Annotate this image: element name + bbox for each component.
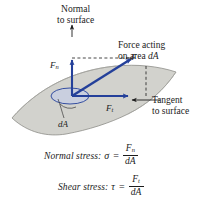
normal-stress-equals: = [113, 150, 119, 161]
normal-label-line1: Normal [57, 4, 94, 15]
normal-force-vector-label: Fn [50, 60, 59, 70]
normal-stress-denominator: dA [123, 156, 138, 167]
force-label-line1: Force acting [118, 40, 165, 51]
normal-stress-fraction: Fn dA [123, 144, 138, 166]
force-label-area: dA [148, 51, 159, 61]
force-acting-label: Force acting on area dA [118, 40, 165, 61]
normal-stress-equation: Normal stress: σ = Fn dA [0, 140, 198, 171]
stress-equations: Normal stress: σ = Fn dA Shear stress: τ… [0, 140, 198, 202]
shear-stress-equals: = [119, 181, 125, 192]
shear-stress-equation: Shear stress: τ = Ft dA [0, 171, 198, 202]
normal-stress-name: Normal stress: [44, 151, 101, 161]
stress-diagram-figure: Normal to surface Force acting on area d… [0, 0, 198, 205]
tangential-force-vector-label: Ft [106, 103, 113, 113]
normal-to-surface-label: Normal to surface [57, 4, 94, 25]
normal-stress-symbol: σ [104, 150, 109, 161]
area-element-label: dA [58, 119, 68, 129]
ft-subscript: t [112, 106, 114, 113]
shear-stress-fraction: Ft dA [129, 175, 144, 197]
resultant-force-vector-label: F [131, 52, 137, 62]
shear-stress-name: Shear stress: [58, 182, 108, 192]
tangent-to-surface-label: Tangent to surface [152, 95, 189, 116]
force-label-line2: on area dA [118, 51, 165, 62]
shear-numerator-subscript: t [138, 178, 140, 185]
fn-subscript: n [56, 63, 59, 70]
normal-label-line2: to surface [57, 15, 94, 26]
normal-stress-numerator: Fn [124, 144, 137, 155]
tangent-label-line2: to surface [152, 106, 189, 117]
shear-stress-symbol: τ [111, 181, 115, 192]
normal-numerator-subscript: n [132, 147, 135, 154]
shear-stress-numerator: Ft [130, 175, 142, 186]
tangent-label-line1: Tangent [152, 95, 189, 106]
shear-stress-denominator: dA [129, 187, 144, 198]
